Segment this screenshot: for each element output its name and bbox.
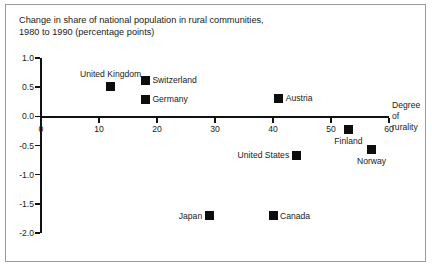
y-axis-tick-label: -1.5 bbox=[8, 199, 34, 209]
y-axis-tick-label-wrap: -0.5 bbox=[6, 141, 34, 151]
data-point-marker bbox=[269, 211, 278, 220]
y-axis-tick bbox=[35, 203, 40, 205]
data-point-label: Canada bbox=[280, 211, 310, 221]
data-point-marker bbox=[141, 76, 150, 85]
y-axis-tick-label-wrap: -1.5 bbox=[6, 199, 34, 209]
data-point-label: Austria bbox=[286, 93, 313, 103]
y-axis-tick bbox=[35, 174, 40, 176]
y-axis-tick-label: 0.0 bbox=[8, 111, 34, 121]
y-axis-tick-label-wrap: -2.0 bbox=[6, 228, 34, 238]
data-point-label: Japan bbox=[179, 211, 202, 221]
data-point-label: Norway bbox=[357, 156, 386, 166]
data-point-marker bbox=[367, 145, 376, 154]
y-axis-tick-label: -1.0 bbox=[8, 170, 34, 180]
y-axis-tick bbox=[35, 86, 40, 88]
data-point-label: Switzerland bbox=[152, 75, 196, 85]
x-axis-tick-label: 30 bbox=[203, 124, 227, 134]
y-axis-tick-label-wrap: -1.0 bbox=[6, 170, 34, 180]
data-point-label: Germany bbox=[152, 94, 187, 104]
y-axis-tick-label-wrap: 0.5 bbox=[6, 82, 34, 92]
x-axis-tick bbox=[272, 118, 274, 123]
x-axis-tick bbox=[330, 118, 332, 123]
y-axis-tick-label-wrap: 1.0 bbox=[6, 53, 34, 63]
y-axis-tick-label-wrap: 0.0 bbox=[6, 111, 34, 121]
y-axis-tick-label: 1.0 bbox=[8, 53, 34, 63]
y-axis-tick bbox=[35, 232, 40, 234]
y-axis-tick bbox=[35, 116, 40, 118]
x-axis-label: Degree of rurality bbox=[392, 100, 432, 134]
data-point-marker bbox=[205, 211, 214, 220]
x-axis-tick bbox=[388, 118, 390, 123]
x-axis-tick-label: 0 bbox=[29, 124, 53, 134]
data-point-marker bbox=[106, 82, 115, 91]
plot-area: 1.00.50.0-0.5-1.0-1.5-2.00102030405060 U… bbox=[0, 0, 432, 268]
y-axis-tick bbox=[35, 57, 40, 59]
data-point-label: Finland bbox=[334, 136, 362, 146]
x-axis-tick-label: 50 bbox=[319, 124, 343, 134]
y-axis-tick bbox=[35, 145, 40, 147]
x-axis-tick-label: 10 bbox=[87, 124, 111, 134]
x-axis-tick-label: 40 bbox=[261, 124, 285, 134]
x-axis-tick bbox=[214, 118, 216, 123]
x-axis-tick bbox=[98, 118, 100, 123]
y-axis-tick-label: 0.5 bbox=[8, 82, 34, 92]
chart-figure: Change in share of national population i… bbox=[0, 0, 432, 268]
data-point-marker bbox=[292, 151, 301, 160]
y-axis-line bbox=[40, 58, 42, 233]
x-axis-tick bbox=[156, 118, 158, 123]
data-point-marker bbox=[141, 95, 150, 104]
data-point-marker bbox=[274, 94, 283, 103]
data-point-label: United States bbox=[238, 150, 290, 160]
data-point-marker bbox=[344, 125, 353, 134]
y-axis-tick-label: -2.0 bbox=[8, 228, 34, 238]
x-axis-tick-label: 20 bbox=[145, 124, 169, 134]
data-point-label: United Kingdom bbox=[80, 69, 141, 79]
y-axis-tick-label: -0.5 bbox=[8, 141, 34, 151]
